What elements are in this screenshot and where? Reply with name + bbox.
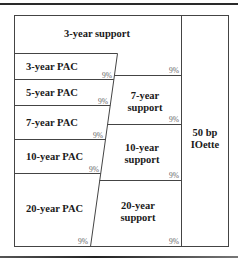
pac-10yr-pct: 9%: [89, 165, 99, 174]
support-10yr-label-line1: 10-year: [125, 142, 159, 153]
ioette-label-line1: 50 bp: [193, 127, 218, 138]
support-7yr-label-line1: 7-year: [131, 90, 160, 101]
support-20yr-label-line2: support: [120, 212, 156, 223]
support-7yr-label-line2: support: [127, 102, 163, 113]
support-3yr-pct: 9%: [169, 66, 179, 75]
support-20yr-label-line1: 20-year: [121, 200, 155, 211]
support-10yr-label-line2: support: [124, 154, 160, 165]
pac-7yr-pct: 9%: [93, 131, 103, 140]
pac-5yr-pct: 9%: [98, 97, 108, 106]
pac-10yr-label: 10-year PAC: [26, 151, 83, 162]
pac-7yr-label: 7-year PAC: [26, 117, 78, 128]
pac-20yr-pct: 9%: [78, 237, 88, 246]
support-7yr-pct: 9%: [169, 115, 179, 124]
ioette-label-line2: IOette: [191, 139, 220, 150]
pac-5yr-label: 5-year PAC: [26, 87, 78, 98]
support-10yr-pct: 9%: [169, 171, 179, 180]
pac-20yr-label: 20-year PAC: [26, 203, 83, 214]
bottom-rule: [0, 256, 238, 258]
pac-3yr-label: 3-year PAC: [26, 61, 78, 72]
slanted-divider: [91, 54, 118, 247]
support-3yr-label: 3-year support: [64, 28, 131, 39]
tranche-structure-diagram: 3-year support 9% 7-year support 9% 10-y…: [0, 0, 238, 261]
support-20yr-pct: 9%: [169, 237, 179, 246]
pac-3yr-pct: 9%: [102, 71, 112, 80]
